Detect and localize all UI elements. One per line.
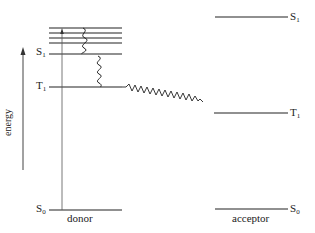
acceptor-label: acceptor (232, 213, 269, 224)
label-sub: 1 (296, 16, 300, 24)
acceptor-t1-label: T1 (290, 107, 300, 122)
donor-t1-label: T1 (36, 80, 46, 95)
acceptor-levels (214, 17, 288, 209)
label-main: T (290, 106, 297, 118)
label-sub: 1 (42, 51, 46, 59)
label-main: T (36, 79, 43, 91)
intersystem-crossing-wavy-arrow (97, 56, 101, 87)
donor-levels (49, 28, 122, 210)
energy-diagram (0, 0, 315, 233)
acceptor-s1-label: S1 (290, 11, 300, 26)
label-sub: 1 (297, 112, 301, 120)
energy-axis-label: energy (2, 109, 13, 136)
absorption-arrow (60, 28, 64, 210)
vibrational-relaxation-wavy-arrow (82, 28, 87, 54)
donor-s0-label: S0 (36, 203, 46, 218)
label-sub: 1 (43, 85, 47, 93)
label-sub: 0 (42, 208, 46, 216)
acceptor-s0-label: S0 (290, 203, 300, 218)
donor-s1-label: S1 (36, 46, 46, 61)
energy-axis-arrow (21, 47, 26, 170)
donor-label: donor (67, 213, 93, 224)
energy-transfer-wavy-arrow (122, 84, 203, 102)
label-sub: 0 (296, 208, 300, 216)
